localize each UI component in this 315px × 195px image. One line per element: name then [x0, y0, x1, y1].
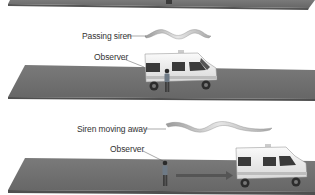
doppler-diagram — [0, 0, 315, 195]
observer-label-passing: Observer — [94, 52, 128, 62]
siren-moving-away-label: Siren moving away — [77, 124, 147, 134]
observer-label-moving-away: Observer — [110, 144, 144, 154]
passing-siren-label: Passing siren — [82, 31, 132, 41]
sound-wave-moving-away-icon — [166, 122, 272, 133]
sound-wave-passing-icon — [145, 30, 211, 39]
top-road-partial — [8, 0, 315, 10]
